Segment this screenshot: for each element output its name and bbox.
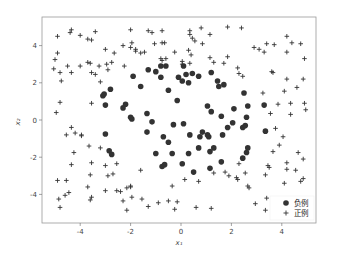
negative-point bbox=[103, 131, 109, 137]
y-tick-label: 2 bbox=[33, 79, 37, 87]
negative-point bbox=[169, 151, 175, 157]
negative-point bbox=[179, 161, 185, 167]
negative-point bbox=[103, 102, 109, 108]
negative-point bbox=[145, 67, 151, 73]
negative-point bbox=[153, 151, 159, 157]
y-axis-label: x₂ bbox=[14, 118, 22, 126]
negative-point bbox=[261, 102, 267, 108]
x-tick-label: 4 bbox=[280, 228, 285, 236]
negative-point bbox=[108, 87, 114, 93]
scatter-chart: -4-2024 420-2-4 x₁ x₂ 负例 正例 bbox=[0, 0, 338, 260]
negative-point bbox=[162, 162, 168, 168]
negative-point bbox=[240, 155, 246, 161]
y-tick-label: 4 bbox=[33, 42, 38, 50]
legend-label-negative: 负例 bbox=[294, 198, 308, 208]
negative-point bbox=[225, 125, 231, 131]
legend-label-positive: 正例 bbox=[294, 208, 308, 218]
negative-point bbox=[158, 63, 164, 69]
negative-point bbox=[179, 78, 185, 84]
negative-point bbox=[186, 80, 192, 86]
negative-point bbox=[244, 114, 250, 120]
legend: 负例 正例 bbox=[270, 196, 314, 220]
negative-point bbox=[219, 159, 225, 165]
y-tick-label: -2 bbox=[30, 154, 37, 162]
negative-point bbox=[174, 98, 180, 104]
negative-point bbox=[166, 140, 172, 146]
negative-point bbox=[191, 169, 197, 175]
y-axis-ticks: 420-2-4 bbox=[30, 42, 42, 199]
negative-point bbox=[263, 128, 269, 134]
negative-point bbox=[190, 71, 196, 77]
negative-point bbox=[231, 106, 237, 112]
negative-point bbox=[245, 103, 251, 109]
negative-point bbox=[196, 145, 202, 151]
negative-point bbox=[109, 152, 115, 158]
negative-point bbox=[187, 132, 193, 138]
negative-point bbox=[130, 73, 136, 79]
negative-point bbox=[220, 132, 226, 138]
x-axis-label: x₁ bbox=[175, 239, 183, 247]
negative-point bbox=[207, 166, 213, 172]
x-tick-label: 2 bbox=[229, 228, 233, 236]
negative-point bbox=[211, 145, 217, 151]
negative-point bbox=[242, 123, 248, 129]
negative-point bbox=[221, 82, 227, 88]
negative-point bbox=[208, 109, 214, 115]
negative-point bbox=[219, 113, 225, 119]
negative-point bbox=[101, 91, 107, 97]
x-tick-label: 0 bbox=[179, 228, 183, 236]
negative-point bbox=[208, 70, 214, 76]
negative-point bbox=[205, 103, 211, 109]
x-axis-ticks: -4-2024 bbox=[77, 223, 285, 236]
negative-point bbox=[181, 121, 187, 127]
negative-point bbox=[206, 134, 212, 140]
y-tick-label: -4 bbox=[30, 191, 38, 199]
negative-point bbox=[230, 120, 236, 126]
negative-point bbox=[153, 69, 159, 75]
x-tick-label: -4 bbox=[77, 228, 85, 236]
legend-circle-marker bbox=[283, 200, 289, 206]
negative-point bbox=[144, 111, 150, 117]
negative-point bbox=[183, 72, 189, 78]
negative-point bbox=[196, 73, 202, 79]
negative-point bbox=[163, 63, 169, 69]
negative-point bbox=[200, 129, 206, 135]
negative-point bbox=[241, 90, 247, 96]
y-tick-label: 0 bbox=[33, 117, 37, 125]
negative-point bbox=[129, 116, 135, 122]
negative-point bbox=[149, 119, 155, 125]
negative-point bbox=[166, 87, 172, 93]
negative-point bbox=[144, 129, 150, 135]
x-tick-label: -2 bbox=[127, 228, 134, 236]
plot-frame bbox=[42, 17, 316, 223]
negative-point bbox=[171, 122, 177, 128]
negative-point bbox=[216, 84, 222, 90]
negative-point bbox=[161, 134, 167, 140]
negative-point bbox=[186, 151, 192, 157]
negative-point bbox=[215, 78, 221, 84]
negative-point bbox=[138, 84, 144, 90]
negative-point bbox=[245, 145, 251, 151]
negative-point bbox=[120, 105, 126, 111]
negative-point bbox=[158, 74, 164, 80]
